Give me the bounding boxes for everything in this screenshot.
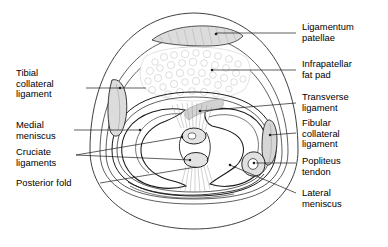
leader-dot-lateral-meniscus bbox=[229, 164, 232, 167]
leader-dot-infrapatellar-fat-pad bbox=[211, 69, 214, 72]
popliteus-tendon-core bbox=[248, 159, 258, 170]
posterior-fold-line-2 bbox=[130, 186, 234, 198]
label-medial-meniscus: Medial meniscus bbox=[16, 120, 56, 141]
leader-dot-ligamentum-patellae bbox=[215, 33, 218, 36]
leader-dot-popliteus-tendon bbox=[253, 162, 256, 165]
leader-dot-medial-meniscus bbox=[139, 129, 141, 131]
label-posterior-fold: Posterior fold bbox=[16, 178, 72, 189]
leader-dot-cruciate-ligaments bbox=[181, 136, 183, 138]
ligamentum-patellae-structure bbox=[152, 26, 243, 46]
label-cruciate-ligaments: Cruciate ligaments bbox=[16, 147, 56, 168]
label-transverse-ligament: Transverse ligament bbox=[302, 92, 349, 113]
label-fibular-collateral-ligament: Fibular collateral ligament bbox=[302, 118, 340, 150]
label-ligamentum-patellae: Ligamentum patellae bbox=[302, 22, 354, 43]
leader-dot-fibular-collateral-ligament bbox=[269, 134, 271, 136]
infrapatellar-fat-pad-structure bbox=[140, 47, 250, 101]
ligamentum-patellae-fill bbox=[152, 26, 243, 46]
label-infrapatellar-fat-pad: Infrapatellar fat pad bbox=[302, 59, 352, 80]
fat-pad-outline bbox=[140, 47, 250, 101]
label-lateral-meniscus: Lateral meniscus bbox=[302, 188, 342, 209]
anterior-cruciate-core bbox=[188, 133, 196, 139]
medial-meniscus-outline bbox=[122, 109, 186, 188]
medial-meniscus-structure bbox=[122, 109, 186, 188]
leader-dot-transverse-ligament bbox=[199, 110, 202, 113]
label-tibial-collateral-ligament: Tibial collateral ligament bbox=[16, 68, 54, 100]
leader-dot-tibial-collateral-ligament bbox=[119, 87, 121, 89]
leader-dot-cruciate-ligaments-2 bbox=[189, 159, 191, 161]
label-popliteus-tendon: Popliteus tendon bbox=[302, 156, 341, 177]
